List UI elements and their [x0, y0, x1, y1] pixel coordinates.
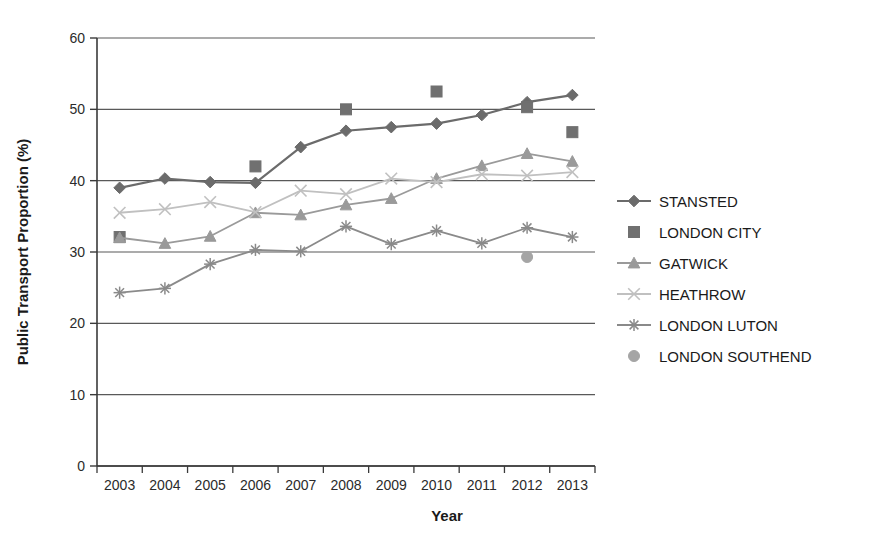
x-tick-label-2003: 2003: [104, 477, 135, 493]
series-heathrow: [114, 166, 578, 218]
data-point-1-2008: [341, 104, 352, 115]
data-point-2-2009: [385, 193, 397, 204]
y-tick-label-60: 60: [69, 30, 85, 46]
legend-item-london-southend[interactable]: LONDON SOUTHEND: [629, 348, 812, 365]
x-tick-label-2004: 2004: [149, 477, 180, 493]
chart-container: 0102030405060200320042005200620072008200…: [0, 0, 892, 558]
y-tick-label-10: 10: [69, 387, 85, 403]
legend-marker-square-icon: [629, 227, 640, 238]
data-point-4-2007: [295, 245, 307, 257]
gridlines-group: 0102030405060: [69, 30, 595, 474]
y-tick-label-40: 40: [69, 173, 85, 189]
x-tick-label-2006: 2006: [240, 477, 271, 493]
x-axis-group: 2003200420052006200720082009201020112012…: [97, 466, 595, 493]
data-point-1-2012: [522, 102, 533, 113]
series-london-southend: [522, 251, 533, 262]
legend-label-0: STANSTED: [659, 193, 738, 210]
legend-label-2: GATWICK: [659, 255, 728, 272]
y-tick-label-30: 30: [69, 244, 85, 260]
data-point-4-2005: [204, 258, 216, 270]
data-point-0-2011: [476, 109, 488, 121]
data-point-4-2010: [430, 225, 442, 237]
data-point-0-2008: [340, 125, 352, 137]
data-point-0-2010: [431, 118, 443, 130]
x-tick-label-2009: 2009: [376, 477, 407, 493]
data-point-0-2009: [385, 121, 397, 133]
data-point-4-2009: [385, 238, 397, 250]
legend-item-heathrow[interactable]: HEATHROW: [617, 286, 746, 303]
public-transport-proportion-line-chart: 0102030405060200320042005200620072008200…: [0, 0, 892, 558]
legend-item-gatwick[interactable]: GATWICK: [617, 255, 728, 272]
data-point-4-2004: [159, 282, 171, 294]
legend-marker-diamond-icon: [628, 195, 640, 207]
data-point-4-2012: [521, 222, 533, 234]
legend-label-5: LONDON SOUTHEND: [659, 348, 812, 365]
y-axis-title: Public Transport Proportion (%): [14, 139, 31, 366]
legend-label-3: HEATHROW: [659, 286, 746, 303]
legend-label-1: LONDON CITY: [659, 224, 762, 241]
legend-label-4: LONDON LUTON: [659, 317, 778, 334]
series-london-luton: [114, 220, 579, 299]
x-tick-label-2007: 2007: [285, 477, 316, 493]
x-axis-title: Year: [431, 507, 463, 524]
data-point-4-2006: [249, 244, 261, 256]
legend-item-london-luton[interactable]: LONDON LUTON: [617, 317, 778, 334]
y-tick-label-0: 0: [77, 458, 85, 474]
data-point-2-2005: [204, 231, 216, 242]
x-tick-label-2008: 2008: [330, 477, 361, 493]
data-point-0-2003: [114, 182, 126, 194]
data-point-1-2010: [431, 86, 442, 97]
data-point-1-2013: [567, 127, 578, 138]
data-point-1-2006: [250, 161, 261, 172]
x-tick-label-2012: 2012: [512, 477, 543, 493]
legend-item-london-city[interactable]: LONDON CITY: [629, 224, 762, 241]
y-tick-label-20: 20: [69, 315, 85, 331]
x-tick-label-2013: 2013: [557, 477, 588, 493]
legend: STANSTEDLONDON CITYGATWICKHEATHROWLONDON…: [617, 193, 812, 365]
legend-item-stansted[interactable]: STANSTED: [617, 193, 738, 210]
data-point-0-2013: [567, 89, 579, 101]
legend-marker-circle-icon: [629, 351, 640, 362]
data-point-4-2013: [566, 231, 578, 243]
series-line-4: [120, 226, 573, 292]
data-point-2-2012: [521, 148, 533, 159]
data-point-0-2004: [159, 173, 171, 185]
data-point-4-2008: [340, 220, 352, 232]
data-point-5-2012: [522, 251, 533, 262]
x-tick-label-2010: 2010: [421, 477, 452, 493]
x-tick-label-2011: 2011: [467, 477, 497, 493]
x-tick-label-2005: 2005: [195, 477, 226, 493]
data-point-4-2011: [476, 237, 488, 249]
data-point-4-2003: [114, 287, 126, 299]
data-point-0-2005: [204, 176, 216, 188]
y-tick-label-50: 50: [69, 101, 85, 117]
legend-marker-asterisk-icon: [628, 319, 640, 331]
